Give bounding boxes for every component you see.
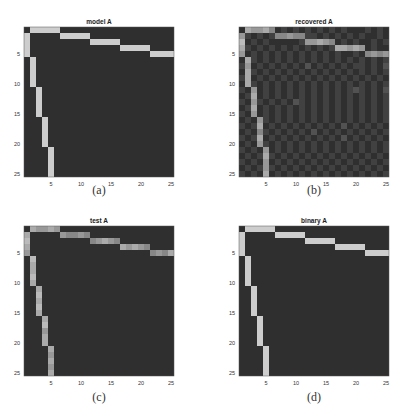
heatmap-cell	[329, 165, 335, 171]
heatmap-cell	[251, 111, 257, 117]
heatmap-cell	[299, 93, 305, 99]
heatmap-cell	[257, 63, 263, 69]
heatmap-cell	[383, 171, 389, 177]
heatmap-cell	[353, 135, 359, 141]
heatmap-cell	[371, 99, 377, 105]
heatmap-cell	[329, 238, 335, 244]
heatmap-cell	[311, 105, 317, 111]
heatmap-cell	[311, 51, 317, 57]
heatmap-cell	[365, 135, 371, 141]
y-tick-label: 15	[14, 310, 20, 316]
heatmap-cell	[281, 33, 287, 39]
heatmap-cell	[263, 358, 269, 364]
heatmap-cell	[275, 171, 281, 177]
x-tick-label: 25	[383, 380, 389, 386]
heatmap-cell	[156, 250, 162, 256]
heatmap-cell	[287, 33, 293, 39]
heatmap-cell	[48, 346, 54, 352]
x-tick-label: 20	[353, 181, 359, 187]
heatmap-cell	[269, 135, 275, 141]
heatmap-cell	[257, 328, 263, 334]
heatmap-cell	[323, 147, 329, 153]
heatmap-cell	[156, 51, 162, 57]
heatmap-cell	[245, 117, 251, 123]
heatmap-cell	[239, 250, 245, 256]
heatmap-cell	[335, 69, 341, 75]
heatmap-cell	[383, 63, 389, 69]
heatmap-cell	[347, 147, 353, 153]
heatmap-cell	[293, 153, 299, 159]
heatmap-cell	[323, 117, 329, 123]
heatmap-cell	[275, 117, 281, 123]
heatmap-cell	[311, 33, 317, 39]
heatmap-binary-a: binary A510152025510152025	[215, 199, 403, 407]
heatmap-cell	[329, 153, 335, 159]
heatmap-cell	[251, 171, 257, 177]
heatmap-cell	[239, 159, 245, 165]
heatmap-cell	[311, 111, 317, 117]
heatmap-cell	[90, 39, 96, 45]
heatmap-cell	[347, 171, 353, 177]
heatmap-cell	[341, 165, 347, 171]
heatmap-cell	[42, 123, 48, 129]
heatmap-cell	[251, 99, 257, 105]
heatmap-cell	[120, 244, 126, 250]
heatmap-cell	[251, 159, 257, 165]
heatmap-cell	[305, 45, 311, 51]
heatmap-cell	[281, 99, 287, 105]
heatmap-cell	[287, 141, 293, 147]
heatmap-cell	[323, 111, 329, 117]
heatmap-cell	[293, 135, 299, 141]
heatmap-cell	[383, 81, 389, 87]
heatmap-cell	[263, 111, 269, 117]
heatmap-cell	[323, 238, 329, 244]
heatmap-cell	[78, 232, 84, 238]
heatmap-cell	[245, 268, 251, 274]
heatmap-cell	[144, 45, 150, 51]
heatmap-cell	[335, 117, 341, 123]
heatmap-cell	[371, 87, 377, 93]
heatmap-cell	[275, 111, 281, 117]
heatmap-cell	[353, 75, 359, 81]
heatmap-cell	[30, 81, 36, 87]
heatmap-cell	[293, 165, 299, 171]
heatmap-cell	[42, 117, 48, 123]
heatmap-cell	[317, 75, 323, 81]
heatmap-cell	[287, 57, 293, 63]
heatmap-cell	[383, 69, 389, 75]
heatmap-cell	[275, 57, 281, 63]
heatmap-cell	[257, 322, 263, 328]
heatmap-cell	[102, 238, 108, 244]
heatmap-cell	[299, 69, 305, 75]
heatmap-cell	[263, 39, 269, 45]
heatmap-cell	[383, 99, 389, 105]
heatmap-cell	[275, 33, 281, 39]
heatmap-cell	[299, 51, 305, 57]
heatmap-cell	[311, 81, 317, 87]
heatmap-cell	[293, 123, 299, 129]
heatmap-cell	[287, 232, 293, 238]
heatmap-cell	[311, 99, 317, 105]
heatmap-cell	[239, 45, 245, 51]
heatmap-cell	[383, 111, 389, 117]
heatmap-cell	[281, 123, 287, 129]
y-tick-label: 25	[14, 370, 20, 376]
heatmap-cell	[48, 147, 54, 153]
heatmap-cell	[263, 57, 269, 63]
chart-title: binary A	[301, 217, 327, 225]
heatmap-cell	[347, 99, 353, 105]
heatmap-cell	[305, 238, 311, 244]
heatmap-cell	[263, 346, 269, 352]
heatmap-cell	[245, 33, 251, 39]
heatmap-cell	[263, 51, 269, 57]
heatmap-cell	[245, 105, 251, 111]
heatmap-cell	[275, 159, 281, 165]
heatmap-cell	[263, 27, 269, 33]
heatmap-cell	[323, 159, 329, 165]
heatmap-cell	[257, 33, 263, 39]
heatmap-cell	[383, 250, 389, 256]
heatmap-cell	[311, 141, 317, 147]
heatmap-cell	[299, 87, 305, 93]
heatmap-cell	[72, 33, 78, 39]
heatmap-cell	[305, 39, 311, 45]
